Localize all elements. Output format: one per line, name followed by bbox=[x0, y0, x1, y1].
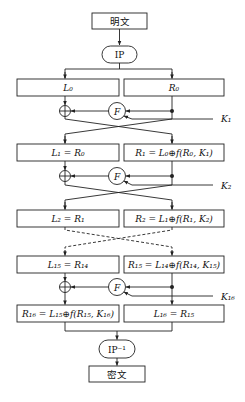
svg-text:F: F bbox=[113, 172, 121, 182]
l2-box: L₂ = R₁ bbox=[17, 210, 119, 227]
l0-box: L₀ bbox=[17, 79, 119, 96]
omitted-rounds-line-r bbox=[65, 227, 172, 255]
swap-line-l bbox=[65, 117, 172, 144]
l16-label: L₁₆ = R₁₅ bbox=[153, 309, 195, 319]
k1-label: K₁ bbox=[220, 114, 231, 124]
arrow-k2-f2 bbox=[124, 181, 132, 185]
xor-icon bbox=[60, 171, 71, 182]
des-feistel-diagram: 明文 IP L₀ R₀ F K₁ L₁ = R₀ bbox=[0, 0, 245, 402]
round-function-f16: F bbox=[109, 279, 126, 296]
svg-text:F: F bbox=[113, 107, 121, 117]
ip-block: IP bbox=[102, 46, 137, 63]
ip-inverse-label: IP⁻¹ bbox=[108, 345, 126, 355]
r16-box: R₁₆ = L₁₅⊕f(R₁₅, K₁₆) bbox=[17, 305, 119, 322]
svg-text:F: F bbox=[113, 283, 121, 293]
omitted-rounds-line-l bbox=[65, 227, 172, 255]
ip-label: IP bbox=[115, 50, 125, 60]
swap-line-r bbox=[65, 119, 172, 143]
xor-icon bbox=[60, 106, 71, 117]
plaintext-label: 明文 bbox=[110, 16, 130, 27]
plaintext-box: 明文 bbox=[92, 13, 147, 29]
swap-line-r bbox=[65, 185, 172, 209]
ciphertext-box: 密文 bbox=[89, 366, 145, 382]
r0-box: R₀ bbox=[124, 79, 224, 96]
ip-inverse-block: IP⁻¹ bbox=[99, 340, 135, 358]
l2-label: L₂ = R₁ bbox=[50, 214, 84, 224]
r0-label: R₀ bbox=[168, 83, 180, 93]
l16-box: L₁₆ = R₁₅ bbox=[124, 305, 224, 322]
r15-label: R₁₅ = L₁₄⊕f(R₁₄, K₁₅) bbox=[127, 260, 220, 270]
k2-label: K₂ bbox=[220, 181, 232, 191]
round-function-f1: F bbox=[109, 103, 126, 120]
r1-box: R₁ = L₀⊕f(R₀, K₁) bbox=[124, 144, 224, 161]
k16-label: K₁₆ bbox=[220, 292, 235, 302]
r16-label: R₁₆ = L₁₅⊕f(R₁₅, K₁₆) bbox=[21, 309, 114, 319]
arrow-k1-f1 bbox=[124, 116, 132, 119]
swap-line-l bbox=[65, 182, 172, 210]
arrow-k16-f16 bbox=[124, 292, 132, 296]
ip-split-line bbox=[65, 69, 172, 78]
r15-box: R₁₅ = L₁₄⊕f(R₁₄, K₁₅) bbox=[124, 256, 224, 273]
l15-label: L₁₅ = R₁₄ bbox=[47, 260, 89, 270]
l0-label: L₀ bbox=[62, 83, 73, 93]
l1-label: L₁ = R₀ bbox=[50, 148, 85, 158]
round-function-f2: F bbox=[109, 168, 126, 185]
l15-box: L₁₅ = R₁₄ bbox=[17, 256, 119, 273]
l1-box: L₁ = R₀ bbox=[17, 144, 119, 161]
r2-label: R₂ = L₁⊕f(R₁, K₂) bbox=[134, 214, 213, 224]
xor-icon bbox=[60, 282, 71, 293]
r1-label: R₁ = L₀⊕f(R₀, K₁) bbox=[134, 148, 213, 158]
r2-box: R₂ = L₁⊕f(R₁, K₂) bbox=[124, 210, 224, 227]
merge-line bbox=[65, 322, 172, 331]
ciphertext-label: 密文 bbox=[107, 369, 127, 380]
